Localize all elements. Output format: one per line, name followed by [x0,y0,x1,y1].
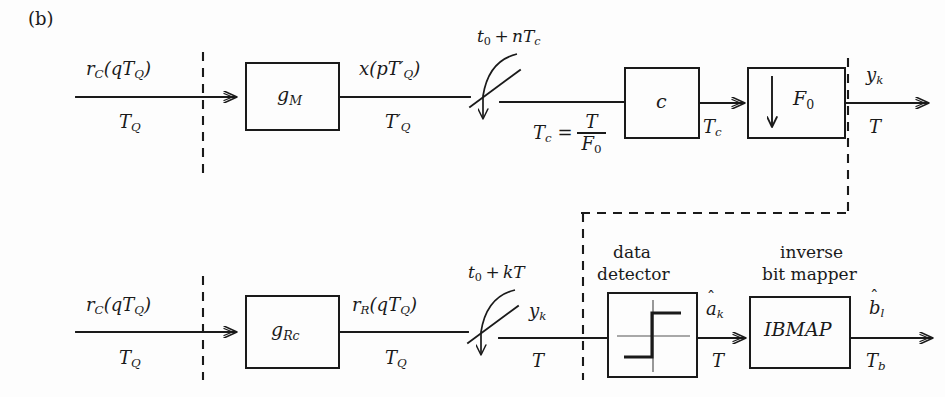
detector-output-label: ˆak [706,300,724,321]
block-grc-label: gRc [271,320,300,342]
figure-part-label: (b) [28,10,54,28]
block-diagram-figure: (b) rC(qTQ) TQ gM x(pT′Q) T′Q t0 + nTc T… [0,0,945,397]
block-ibmap-label: IBMAP [764,320,831,339]
lower-sampling-clock-arrow [481,290,515,354]
signal-after-gm-label: x(pT′Q) [359,60,420,81]
detector-output-rate-label: T [712,352,724,370]
rate-after-gm-label: T′Q [385,113,410,134]
mapper-caption-line1: inverse [780,244,843,261]
lower-switch-clock-label: t0 + kT [468,264,525,283]
rate-after-c-label: Tc [703,118,722,139]
upper-sampling-clock-arrow [483,54,517,118]
block-gm-label: gM [277,85,302,107]
fraction-t-over-f0: T F0 [577,113,605,155]
lower-input-signal-label: rC(qTQ) [86,296,151,317]
upper-input-rate-label: TQ [119,113,141,134]
signal-after-grc-label: rR(qTQ) [352,296,417,317]
threshold-step-icon [617,300,690,372]
signal-after-switch-label: yk [529,302,546,323]
fraction-denominator: F0 [577,134,605,155]
detector-caption-line2: detector [597,266,670,283]
upper-output-rate-label: T [869,118,881,136]
upper-switch-clock-label: t0 + nTc [477,28,541,47]
rate-after-grc-label: TQ [385,349,407,370]
detector-caption-line1: data [613,244,651,261]
mapper-caption-line2: bit mapper [762,266,857,283]
block-downsampler-label: F0 [793,89,814,111]
rate-after-switch-label: T [532,352,544,370]
mapper-output-rate-label: Tb [866,352,886,373]
rate-relation-tc-label: Tc = T F0 [533,113,606,155]
block-c-label: c [656,92,667,111]
upper-output-signal-label: yk [866,66,883,87]
fraction-numerator: T [582,113,602,132]
mapper-output-label: ˆbl [869,299,884,320]
upper-input-signal-label: rC(qTQ) [86,60,151,81]
lower-input-rate-label: TQ [119,349,141,370]
